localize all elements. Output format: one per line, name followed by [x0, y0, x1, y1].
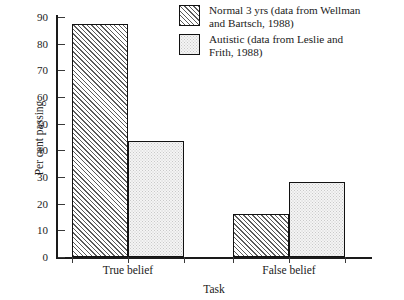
- y-axis-tick-label: 80: [0, 38, 48, 49]
- bar: [128, 141, 184, 257]
- legend-label-autistic-line1: Autistic (data from Leslie and: [209, 33, 343, 46]
- x-axis-tick: [128, 257, 129, 263]
- x-axis-category-label: False belief: [262, 264, 315, 276]
- bar: [289, 182, 345, 257]
- legend: Normal 3 yrs (data from Wellman and Bart…: [179, 4, 401, 62]
- x-axis-tick: [289, 257, 290, 263]
- legend-item-normal: Normal 3 yrs (data from Wellman and Bart…: [179, 4, 401, 29]
- x-axis-title: Task: [203, 283, 225, 295]
- x-axis-tick: [72, 257, 73, 263]
- y-axis-tick-label: 10: [0, 225, 48, 236]
- legend-label-autistic-line2: Frith, 1988): [209, 46, 343, 59]
- legend-label-normal: Normal 3 yrs (data from Wellman and Bart…: [209, 4, 360, 29]
- bar-chart-figure: 0102030405060708090 Per cent passing Tru…: [0, 0, 404, 300]
- y-axis-tick-label: 90: [0, 12, 48, 23]
- x-axis-line: [56, 257, 372, 259]
- legend-label-normal-line2: and Bartsch, 1988): [209, 17, 360, 30]
- legend-swatch-normal: [179, 5, 200, 26]
- y-axis-tick: [58, 257, 65, 258]
- x-axis-tick: [345, 257, 346, 263]
- legend-item-autistic: Autistic (data from Leslie and Frith, 19…: [179, 33, 401, 58]
- x-axis-tick: [184, 257, 185, 263]
- legend-swatch-autistic: [179, 34, 200, 55]
- y-axis-tick-label: 0: [0, 252, 48, 263]
- legend-label-autistic: Autistic (data from Leslie and Frith, 19…: [209, 33, 343, 58]
- x-axis-tick: [233, 257, 234, 263]
- bar: [233, 214, 289, 257]
- y-axis-tick-label: 20: [0, 198, 48, 209]
- y-axis-tick-label: 70: [0, 65, 48, 76]
- x-axis-category-label: True belief: [103, 264, 153, 276]
- y-axis-title: Per cent passing: [33, 101, 45, 176]
- bar: [72, 24, 128, 257]
- legend-label-normal-line1: Normal 3 yrs (data from Wellman: [209, 4, 360, 17]
